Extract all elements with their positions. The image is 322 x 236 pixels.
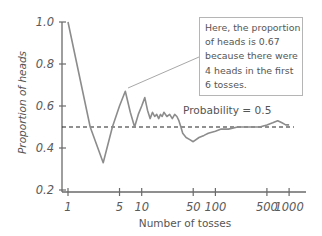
y-tick-label: 0.8: [36, 57, 54, 71]
x-tick-label: 10: [134, 200, 149, 214]
x-axis-title: Number of tosses: [139, 217, 231, 229]
y-axis-title: Proportion of heads: [16, 54, 28, 154]
annotation-leader-line: [128, 57, 199, 88]
y-tick-label: 1.0: [36, 15, 54, 29]
y-tick-label: 0.6: [36, 99, 54, 113]
y-tick-label: 0.2: [36, 183, 54, 197]
annotation-line: because there were: [205, 49, 298, 63]
x-tick-label: 50: [186, 200, 201, 214]
annotation-line: 6 tosses.: [205, 78, 298, 92]
annotation-line: 4 heads in the first: [205, 64, 298, 78]
annotation-line: Here, the proportion: [205, 21, 298, 35]
x-tick-label: 100: [204, 200, 226, 214]
x-tick-label: 5: [116, 200, 123, 214]
annotation-line: of heads is 0.67: [205, 35, 298, 49]
x-tick-label: 1: [64, 200, 71, 214]
x-tick-label: 1000: [274, 200, 303, 214]
probability-label: Probability = 0.5: [183, 104, 271, 116]
annotation-box: Here, the proportion of heads is 0.67 be…: [199, 17, 303, 96]
y-tick-label: 0.4: [36, 141, 54, 155]
